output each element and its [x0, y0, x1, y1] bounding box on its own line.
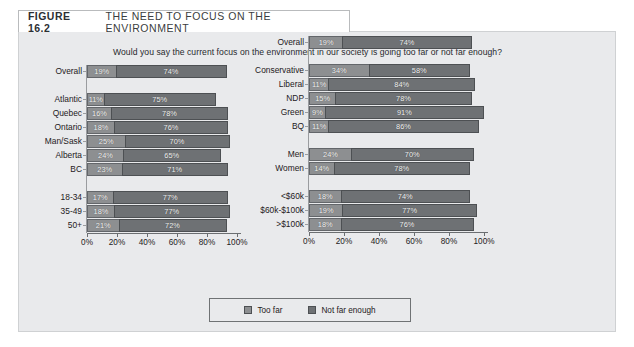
- stacked-bar: 16%78%: [87, 107, 305, 120]
- x-axis-tick: [484, 232, 485, 236]
- bar-segment-not-far-enough: 86%: [328, 120, 479, 133]
- bar-segment-not-far-enough: 76%: [114, 121, 228, 134]
- chart-row: Alberta24%65%: [87, 149, 305, 162]
- stacked-bar: 34%58%: [309, 64, 571, 77]
- bar-value-too-far: 24%: [323, 150, 338, 159]
- chart-category-label: 18-34: [61, 191, 82, 204]
- bar-segment-not-far-enough: 58%: [369, 64, 471, 77]
- bar-value-too-far: 25%: [99, 137, 114, 146]
- bar-value-not-far-enough: 78%: [394, 164, 409, 173]
- figure-title: THE NEED TO FOCUS ON THE ENVIRONMENT: [106, 10, 349, 34]
- bar-value-too-far: 18%: [94, 207, 109, 216]
- y-axis-tick: [83, 211, 87, 212]
- bar-value-too-far: 19%: [319, 38, 334, 47]
- bar-segment-not-far-enough: 78%: [334, 162, 471, 175]
- chart-category-label: Overall: [55, 65, 82, 78]
- chart-row: Green9%91%: [309, 106, 571, 119]
- y-axis-tick: [83, 155, 87, 156]
- bar-value-not-far-enough: 65%: [164, 151, 179, 160]
- bar-segment-too-far: 18%: [309, 218, 341, 231]
- chart-row: $60k-$100k19%77%: [309, 204, 571, 217]
- bar-value-not-far-enough: 72%: [165, 221, 180, 230]
- bar-value-too-far: 21%: [96, 221, 111, 230]
- bar-value-too-far: 18%: [318, 220, 333, 229]
- chart-row: Conservative34%58%: [309, 64, 571, 77]
- bar-segment-too-far: 11%: [87, 93, 104, 106]
- y-axis-tick: [305, 112, 309, 113]
- chart-row: Quebec16%78%: [87, 107, 305, 120]
- chart-category-label: Man/Sask: [45, 135, 82, 148]
- bar-segment-not-far-enough: 91%: [325, 106, 484, 119]
- bar-value-too-far: 19%: [94, 67, 109, 76]
- chart-row-spacer: [309, 50, 571, 63]
- bar-value-not-far-enough: 91%: [397, 108, 412, 117]
- x-axis-tick-label: 100%: [227, 238, 248, 247]
- bar-segment-not-far-enough: 74%: [342, 36, 472, 49]
- y-axis-tick: [305, 168, 309, 169]
- stacked-bar: 24%70%: [309, 148, 571, 161]
- bar-segment-not-far-enough: 77%: [114, 205, 230, 218]
- bar-segment-too-far: 34%: [309, 64, 369, 77]
- x-axis-tick-label: 0%: [81, 238, 93, 247]
- y-axis-tick: [83, 71, 87, 72]
- legend-item: Not far enough: [308, 306, 375, 315]
- bar-segment-not-far-enough: 72%: [119, 219, 227, 232]
- chart-category-label: Green: [281, 106, 304, 119]
- chart-category-label: 50+: [68, 219, 82, 232]
- bar-value-not-far-enough: 74%: [398, 192, 413, 201]
- legend-swatch: [308, 306, 316, 314]
- bar-value-too-far: 15%: [315, 94, 330, 103]
- chart-category-label: Overall: [277, 36, 304, 49]
- bar-segment-too-far: 21%: [87, 219, 119, 232]
- bar-value-not-far-enough: 70%: [170, 137, 185, 146]
- bar-segment-too-far: 18%: [87, 205, 114, 218]
- bar-segment-too-far: 19%: [87, 65, 116, 78]
- chart-row-spacer: [87, 177, 305, 190]
- chart-row-spacer: [87, 79, 305, 92]
- chart-category-label: Alberta: [55, 149, 82, 162]
- bar-segment-not-far-enough: 84%: [328, 78, 475, 91]
- bar-value-not-far-enough: 75%: [152, 95, 167, 104]
- x-axis-tick: [379, 232, 380, 236]
- bar-value-too-far: 14%: [314, 164, 329, 173]
- bar-value-not-far-enough: 84%: [394, 80, 409, 89]
- stacked-bar: 18%76%: [87, 121, 305, 134]
- legend-label: Too far: [257, 306, 282, 315]
- x-axis-tick: [177, 233, 178, 237]
- y-axis-tick: [305, 84, 309, 85]
- chart-row: Women14%78%: [309, 162, 571, 175]
- bar-segment-not-far-enough: 78%: [111, 107, 228, 120]
- chart-category-label: Quebec: [53, 107, 82, 120]
- chart-category-label: Atlantic: [55, 93, 82, 106]
- x-axis-tick: [87, 233, 88, 237]
- stacked-bar: 19%77%: [309, 204, 571, 217]
- bar-segment-too-far: 19%: [309, 36, 342, 49]
- bar-value-not-far-enough: 77%: [402, 206, 417, 215]
- chart-row: Atlantic11%75%: [87, 93, 305, 106]
- legend-swatch: [244, 306, 252, 314]
- chart-row: Men24%70%: [309, 148, 571, 161]
- bar-segment-too-far: 11%: [309, 120, 328, 133]
- y-axis-tick: [83, 169, 87, 170]
- chart-category-label: Conservative: [255, 64, 304, 77]
- x-axis-tick: [207, 233, 208, 237]
- chart-row: BQ11%86%: [309, 120, 571, 133]
- stacked-bar: 24%65%: [87, 149, 305, 162]
- chart-category-label: Men: [288, 148, 304, 161]
- y-axis-spine: [86, 65, 87, 233]
- bar-value-too-far: 18%: [94, 123, 109, 132]
- bar-segment-not-far-enough: 76%: [341, 218, 474, 231]
- x-axis-tick: [344, 232, 345, 236]
- y-axis-tick: [305, 42, 309, 43]
- x-axis-line: [87, 233, 241, 234]
- stacked-bar: 11%84%: [309, 78, 571, 91]
- chart-panel-right: Overall19%74%Conservative34%58%Liberal11…: [309, 36, 571, 298]
- bar-value-too-far: 9%: [312, 108, 323, 117]
- chart-row: >$100k18%76%: [309, 218, 571, 231]
- x-axis-tick-label: 0%: [303, 237, 315, 246]
- chart-row: NDP15%78%: [309, 92, 571, 105]
- bar-segment-not-far-enough: 77%: [342, 204, 477, 217]
- figure-container: FIGURE 16.2 THE NEED TO FOCUS ON THE ENV…: [18, 10, 616, 332]
- chart-row: <$60k18%74%: [309, 190, 571, 203]
- stacked-bar: 18%74%: [309, 190, 571, 203]
